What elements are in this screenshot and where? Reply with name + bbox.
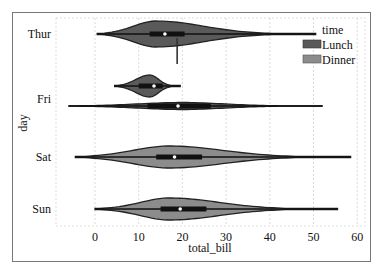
- x-tick-label: 60: [351, 230, 363, 244]
- violins: [69, 21, 351, 220]
- y-tick-label: Sun: [32, 202, 51, 216]
- violin-median-dot: [176, 104, 180, 108]
- x-tick-label: 50: [308, 230, 320, 244]
- violin-iqr-box: [150, 32, 185, 37]
- y-tick-label: Thur: [28, 27, 51, 41]
- x-axis-label: total_bill: [188, 241, 232, 255]
- violin-median-dot: [163, 32, 167, 36]
- violin-iqr-box: [161, 207, 207, 212]
- violin-iqr-box: [139, 84, 163, 89]
- violin-median-dot: [178, 207, 182, 211]
- x-tick-label: 20: [176, 230, 188, 244]
- y-tick-label: Fri: [37, 92, 52, 106]
- plot-area: [56, 18, 365, 226]
- legend-swatch-lunch: [303, 40, 321, 48]
- x-tick-label: 0: [92, 230, 98, 244]
- legend-label-lunch[interactable]: Lunch: [322, 38, 353, 52]
- violin-chart: 0102030405060 ThurFriSatSun total_bill d…: [0, 0, 383, 271]
- y-tick-labels: ThurFriSatSun: [28, 27, 52, 216]
- violin-iqr-box: [156, 155, 202, 160]
- y-tick-label: Sat: [36, 150, 52, 164]
- gridlines: [95, 18, 357, 226]
- x-tick-label: 40: [264, 230, 276, 244]
- violin-median-dot: [152, 84, 156, 88]
- legend-swatch-dinner: [303, 55, 321, 63]
- legend: time Lunch Dinner: [303, 23, 355, 67]
- violin-median-dot: [173, 155, 177, 159]
- legend-label-dinner[interactable]: Dinner: [322, 53, 355, 67]
- legend-title: time: [322, 23, 343, 37]
- x-tick-label: 10: [133, 230, 145, 244]
- y-axis-label: day: [16, 114, 30, 131]
